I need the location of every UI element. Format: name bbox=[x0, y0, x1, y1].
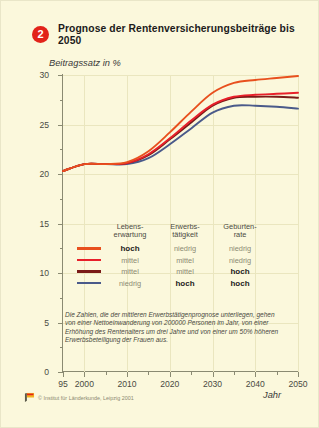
y-tick-label: 10 bbox=[27, 268, 49, 278]
legend-row: hochniedrigniedrig bbox=[105, 243, 265, 254]
series-line bbox=[63, 97, 298, 171]
y-tick bbox=[58, 273, 63, 274]
x-tick-minor bbox=[234, 372, 235, 375]
y-tick-minor bbox=[60, 100, 63, 101]
x-axis-label: Jahr bbox=[263, 390, 281, 400]
y-tick-minor bbox=[60, 298, 63, 299]
figure-panel: 2 Prognose der Rentenversicherungsbeiträ… bbox=[0, 0, 319, 428]
legend-cell: hoch bbox=[160, 278, 210, 289]
legend-cell: mittel bbox=[160, 266, 210, 277]
y-tick bbox=[58, 224, 63, 225]
legend-header-erwerbstaetigkeit: Erwerbs-tätigkeit bbox=[160, 223, 210, 239]
x-tick-label: 2010 bbox=[107, 379, 147, 389]
x-tick bbox=[255, 372, 256, 377]
series-line bbox=[63, 76, 298, 171]
x-tick bbox=[298, 372, 299, 377]
x-tick-minor bbox=[277, 372, 278, 375]
legend-cell: hoch bbox=[215, 266, 265, 277]
footnote-text: Die Zahlen, die der mittleren Erwerbstät… bbox=[65, 311, 283, 345]
legend-row: mittelmittelhoch bbox=[105, 266, 265, 277]
legend-color-swatch bbox=[77, 282, 101, 285]
y-tick-label: 5 bbox=[27, 318, 49, 328]
legend-color-swatch bbox=[77, 247, 101, 250]
y-tick-label: 20 bbox=[27, 169, 49, 179]
legend-cell: mittel bbox=[105, 255, 155, 266]
y-tick-minor bbox=[60, 149, 63, 150]
legend-row: mittelmittelniedrig bbox=[105, 255, 265, 266]
legend-header-geburtenrate: Geburten-rate bbox=[215, 223, 265, 239]
x-tick-label: 2030 bbox=[193, 379, 233, 389]
legend-cell: mittel bbox=[160, 255, 210, 266]
legend-cell: niedrig bbox=[105, 278, 155, 289]
y-tick-label: 0 bbox=[27, 367, 49, 377]
x-tick bbox=[213, 372, 214, 377]
x-tick bbox=[127, 372, 128, 377]
institute-logo-icon bbox=[23, 391, 36, 404]
y-tick bbox=[58, 174, 63, 175]
legend-row: niedrighochhoch bbox=[105, 278, 265, 289]
series-line bbox=[63, 105, 298, 171]
x-tick-minor bbox=[191, 372, 192, 375]
legend-cell: mittel bbox=[105, 266, 155, 277]
x-tick-label: 2000 bbox=[64, 379, 104, 389]
legend-cell: hoch bbox=[215, 278, 265, 289]
x-tick-label: 2040 bbox=[235, 379, 275, 389]
legend-cell: niedrig bbox=[160, 243, 210, 254]
legend-color-swatch bbox=[77, 270, 101, 273]
copyright-text: © Institut für Länderkunde, Leipzig 2001 bbox=[38, 395, 134, 401]
curve-layer bbox=[1, 1, 319, 428]
y-tick bbox=[58, 323, 63, 324]
y-tick bbox=[58, 75, 63, 76]
x-tick bbox=[63, 372, 64, 377]
legend-cell: hoch bbox=[105, 243, 155, 254]
legend-header-lebenserwartung: Lebens-erwartung bbox=[105, 223, 155, 239]
y-tick-label: 15 bbox=[27, 219, 49, 229]
x-tick-minor bbox=[106, 372, 107, 375]
x-tick-minor bbox=[148, 372, 149, 375]
y-tick-label: 30 bbox=[27, 70, 49, 80]
legend-color-swatch bbox=[77, 259, 101, 262]
x-tick-label: 2050 bbox=[278, 379, 318, 389]
y-tick-minor bbox=[60, 248, 63, 249]
y-tick-minor bbox=[60, 199, 63, 200]
y-tick-label: 25 bbox=[27, 120, 49, 130]
y-tick-minor bbox=[60, 347, 63, 348]
x-tick bbox=[170, 372, 171, 377]
x-tick-label: 2020 bbox=[150, 379, 190, 389]
legend-cell: niedrig bbox=[215, 255, 265, 266]
y-tick bbox=[58, 125, 63, 126]
legend-cell: niedrig bbox=[215, 243, 265, 254]
x-tick bbox=[84, 372, 85, 377]
